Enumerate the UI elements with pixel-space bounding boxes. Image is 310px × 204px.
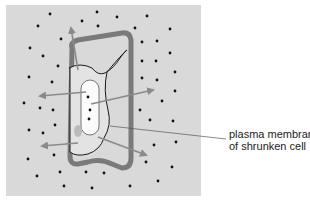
label-line-2: of shrunken cell: [229, 140, 310, 152]
chloroplast: [74, 125, 82, 137]
plasma-membrane-label: plasma membrane of shrunken cell: [229, 128, 310, 152]
label-line-1: plasma membrane: [229, 128, 310, 140]
vacuole: [81, 80, 99, 135]
plasmolysis-diagram: [0, 0, 310, 204]
